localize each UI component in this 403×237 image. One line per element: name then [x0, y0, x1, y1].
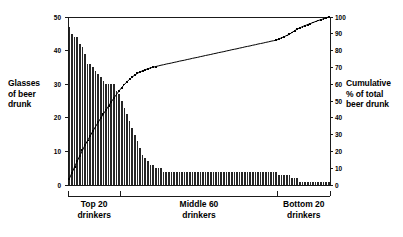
- bar: [310, 182, 312, 185]
- cumulative-marker: [108, 105, 110, 107]
- cumulative-marker: [92, 130, 94, 132]
- bar: [87, 64, 89, 185]
- y-axis-tick-label: 0: [47, 182, 61, 189]
- cumulative-marker: [84, 144, 86, 146]
- bar: [231, 172, 233, 185]
- cumulative-marker: [288, 33, 290, 35]
- bar: [129, 121, 131, 185]
- bar: [79, 44, 81, 185]
- y2-axis-tick-label: 90: [335, 30, 349, 37]
- bar: [186, 172, 188, 185]
- y-axis-tick-label: 10: [47, 148, 61, 155]
- bar: [163, 172, 165, 185]
- bar: [210, 172, 212, 185]
- cumulative-marker: [76, 160, 78, 162]
- bar: [92, 67, 94, 185]
- bar: [118, 94, 120, 185]
- bar: [124, 108, 126, 185]
- y2-axis-tick-label: 30: [335, 131, 349, 138]
- cumulative-marker: [328, 16, 330, 18]
- bar: [249, 172, 251, 185]
- bar: [286, 175, 288, 185]
- y2-axis-tick-label: 40: [335, 114, 349, 121]
- bar: [171, 172, 173, 185]
- bar: [108, 84, 110, 185]
- bar: [325, 182, 327, 185]
- y2-axis-tick-label: 0: [335, 182, 349, 189]
- bar: [262, 172, 264, 185]
- cumulative-marker: [105, 109, 107, 111]
- bar: [192, 172, 194, 185]
- bar: [176, 172, 178, 185]
- bar: [273, 172, 275, 185]
- bar: [207, 172, 209, 185]
- bar: [160, 168, 162, 185]
- bar: [244, 172, 246, 185]
- cumulative-marker: [304, 25, 306, 27]
- bar: [194, 172, 196, 185]
- cumulative-marker: [134, 74, 136, 76]
- y2-axis-tick-label: 60: [335, 81, 349, 88]
- cumulative-marker: [87, 140, 89, 142]
- bar: [100, 77, 102, 185]
- bar: [197, 172, 199, 185]
- cumulative-marker: [102, 113, 104, 115]
- cumulative-marker: [121, 87, 123, 89]
- bar: [131, 128, 133, 185]
- bar: [165, 172, 167, 185]
- bar: [302, 182, 304, 185]
- cumulative-marker: [283, 36, 285, 38]
- cumulative-marker: [144, 69, 146, 71]
- cumulative-marker: [142, 70, 144, 72]
- bar: [294, 178, 296, 185]
- bar: [234, 172, 236, 185]
- bar: [181, 172, 183, 185]
- cumulative-marker: [123, 84, 125, 86]
- bar: [255, 172, 257, 185]
- bar: [202, 172, 204, 185]
- cumulative-marker: [294, 30, 296, 32]
- bar: [218, 172, 220, 185]
- bar: [116, 91, 118, 185]
- cumulative-marker: [68, 178, 70, 180]
- cumulative-marker: [113, 97, 115, 99]
- cumulative-marker: [315, 21, 317, 23]
- cumulative-marker: [286, 35, 288, 37]
- bar: [158, 168, 160, 185]
- cumulative-marker: [118, 90, 120, 92]
- cumulative-marker: [312, 22, 314, 24]
- bar: [147, 161, 149, 185]
- bar: [252, 172, 254, 185]
- y-axis-tick-label: 20: [47, 114, 61, 121]
- bar: [328, 182, 330, 185]
- bar: [137, 141, 139, 185]
- bar: [150, 165, 152, 185]
- bar: [126, 114, 128, 185]
- group-label-bottom20: Bottom 20 drinkers: [258, 199, 350, 220]
- bar: [189, 172, 191, 185]
- cumulative-marker: [74, 166, 76, 168]
- bar: [317, 182, 319, 185]
- bar: [320, 182, 322, 185]
- bar: [281, 175, 283, 185]
- cumulative-marker: [309, 23, 311, 25]
- bar: [69, 27, 71, 185]
- cumulative-marker: [129, 78, 131, 80]
- pareto-chart-figure: Glasses of beer drunk Cumulative % of to…: [0, 0, 403, 237]
- bar: [275, 172, 277, 185]
- bar: [103, 81, 105, 185]
- y2-axis-tick-label: 20: [335, 148, 349, 155]
- bar: [134, 135, 136, 185]
- cumulative-marker: [79, 155, 81, 157]
- cumulative-marker: [89, 135, 91, 137]
- cumulative-marker: [136, 72, 138, 74]
- cumulative-marker: [110, 101, 112, 103]
- cumulative-marker: [278, 38, 280, 40]
- bar: [239, 172, 241, 185]
- y-axis-tick-label: 50: [47, 14, 61, 21]
- cumulative-marker: [71, 172, 73, 174]
- y2-axis-tick-label: 80: [335, 47, 349, 54]
- bar: [241, 172, 243, 185]
- cumulative-marker: [307, 24, 309, 26]
- bar: [168, 172, 170, 185]
